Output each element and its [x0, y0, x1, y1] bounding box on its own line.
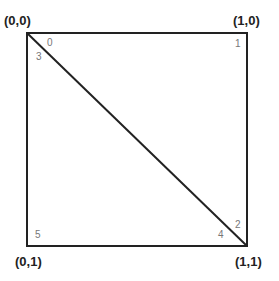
vertex-index-1: 1 — [235, 38, 241, 49]
vertex-index-5: 5 — [35, 229, 41, 240]
vertex-index-0: 0 — [47, 37, 53, 48]
corner-label-top-right: (1,0) — [233, 13, 260, 28]
corner-label-bottom-right: (1,1) — [235, 254, 262, 269]
corner-label-top-left: (0,0) — [4, 13, 31, 28]
corner-label-bottom-left: (0,1) — [15, 254, 42, 269]
vertex-index-2: 2 — [235, 219, 241, 230]
triangulated-square-diagram: (0,0) (1,0) (0,1) (1,1) 0 1 2 3 4 5 — [0, 0, 279, 281]
vertex-index-3: 3 — [36, 51, 42, 62]
vertex-index-4: 4 — [218, 229, 224, 240]
diagonal-line — [27, 33, 247, 246]
